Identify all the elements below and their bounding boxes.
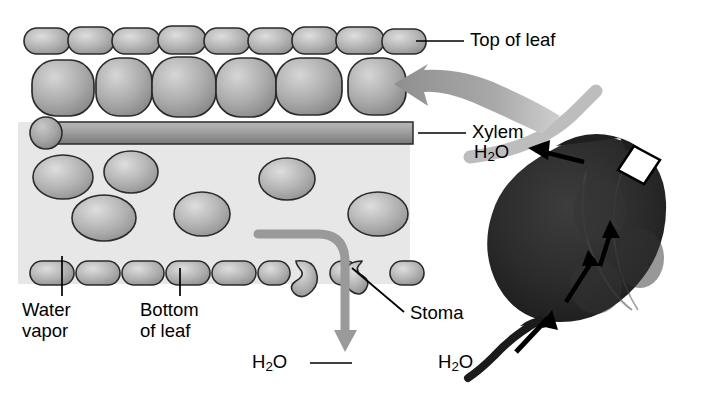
h2o-o: O	[273, 351, 287, 372]
spongy-cell	[174, 192, 230, 236]
h2o-sub: 2	[265, 359, 272, 374]
label-water-vapor: Water vapor	[22, 300, 71, 341]
spongy-cell	[72, 195, 136, 241]
spongy-cell	[33, 155, 93, 199]
h2o-o: O	[459, 351, 473, 372]
epidermis-cell	[204, 28, 250, 54]
palisade-cell	[348, 58, 406, 115]
palisade-cell	[32, 60, 94, 116]
h2o-h: H	[474, 141, 487, 162]
diagram-canvas: Top of leaf Xylem Water vapor Bottom of …	[0, 0, 708, 412]
xylem-cap	[30, 117, 62, 149]
epidermis-cell	[122, 261, 164, 285]
upper-epidermis-layer	[24, 26, 426, 54]
label-xylem: Xylem	[472, 122, 523, 143]
h2o-h: H	[252, 351, 265, 372]
h2o-sub: 2	[451, 359, 458, 374]
palisade-cell	[276, 58, 342, 115]
epidermis-cell	[248, 28, 294, 54]
palisade-cell	[152, 57, 216, 117]
epidermis-cell	[292, 27, 338, 54]
leaf-diagram-svg	[0, 0, 708, 412]
epidermis-cell	[166, 261, 210, 285]
epidermis-cell	[158, 26, 206, 54]
label-h2o-stem: H2O	[438, 352, 473, 375]
epidermis-cell	[258, 261, 290, 285]
xylem-vessel	[30, 117, 413, 149]
epidermis-cell	[24, 28, 70, 54]
epidermis-cell	[30, 261, 74, 285]
epidermis-cell	[212, 261, 256, 285]
palisade-mesophyll-layer	[32, 57, 406, 117]
spongy-cell	[104, 151, 158, 193]
label-stoma: Stoma	[410, 303, 463, 324]
label-bottom-of-leaf: Bottom of leaf	[140, 300, 199, 341]
epidermis-cell	[76, 261, 120, 285]
h2o-h: H	[438, 351, 451, 372]
epidermis-cell	[68, 27, 114, 54]
palisade-cell	[216, 58, 276, 117]
leaf-petiole	[468, 320, 540, 378]
epidermis-cell	[390, 261, 424, 285]
spongy-cell	[259, 158, 315, 200]
spongy-cell	[348, 192, 408, 236]
h2o-sub: 2	[487, 149, 494, 164]
label-h2o-cross-section: H2O	[252, 352, 287, 375]
whole-leaf-illustration	[468, 134, 666, 378]
label-top-of-leaf: Top of leaf	[470, 30, 555, 51]
h2o-o: O	[495, 141, 509, 162]
epidermis-cell	[336, 27, 384, 54]
label-h2o-leaf-top: H2O	[474, 142, 509, 165]
palisade-cell	[96, 58, 152, 116]
epidermis-cell	[112, 28, 160, 54]
